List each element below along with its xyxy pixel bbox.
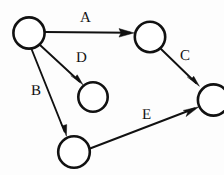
edge-c-line (161, 49, 196, 83)
node-n3[interactable] (78, 82, 107, 111)
edge-d-line (40, 45, 80, 82)
edge-a-line (45, 32, 130, 33)
edge-label-e: E (142, 108, 151, 123)
node-n1[interactable] (13, 17, 44, 48)
graph-diagram-canvas: A D B C E (0, 0, 224, 175)
edge-label-c: C (180, 49, 190, 64)
node-n5[interactable] (58, 136, 90, 168)
edge-c-arrowhead (187, 76, 199, 86)
edge-a-arrowhead (119, 29, 134, 37)
edge-a[interactable] (45, 29, 134, 37)
node-n4[interactable] (198, 84, 224, 115)
edge-b-arrowhead (60, 121, 66, 136)
edge-label-a: A (80, 11, 91, 26)
node-n2[interactable] (135, 22, 165, 52)
edge-label-b: B (31, 84, 41, 99)
edge-label-d: D (76, 51, 87, 66)
